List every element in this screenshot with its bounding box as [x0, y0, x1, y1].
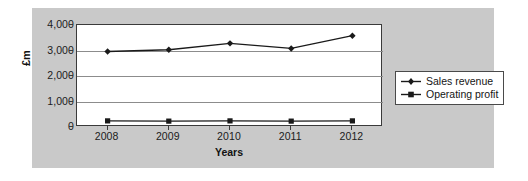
plot-svg [77, 25, 383, 127]
y-tick-label: 4,000 [30, 19, 74, 29]
legend-marker-square-icon [400, 89, 422, 100]
chart-panel: £m 4,000 3,000 2,000 1,000 0 2008 [32, 8, 494, 168]
chart-legend: Sales revenue Operating profit [395, 71, 504, 105]
data-point-square [105, 118, 110, 123]
y-tick-mark [69, 75, 73, 76]
data-point-square [289, 119, 294, 124]
data-point-square [350, 118, 355, 123]
x-axis-tick-labels: 2008 2009 2010 2011 2012 [76, 130, 382, 146]
legend-marker-diamond-icon [400, 76, 422, 87]
y-tick-mark [69, 126, 73, 127]
y-tick-mark [69, 101, 73, 102]
data-point-diamond [104, 48, 110, 54]
y-tick-label: 1,000 [30, 96, 74, 106]
legend-item-label: Sales revenue [426, 76, 493, 87]
gridlines [77, 52, 383, 103]
y-tick-label: 0 [30, 121, 74, 131]
x-tick-label: 2009 [140, 130, 196, 142]
chart-figure: £m 4,000 3,000 2,000 1,000 0 2008 [0, 0, 528, 181]
x-tick-label: 2008 [79, 130, 135, 142]
data-point-square [166, 119, 171, 124]
x-tick-label: 2010 [201, 130, 257, 142]
x-axis-title: Years [76, 146, 382, 158]
y-tick-label: 3,000 [30, 45, 74, 55]
legend-item-label: Operating profit [426, 89, 498, 100]
y-tick-mark [69, 50, 73, 51]
y-tick-label: 2,000 [30, 70, 74, 80]
legend-item[interactable]: Sales revenue [400, 75, 498, 88]
legend-item[interactable]: Operating profit [400, 88, 498, 101]
y-axis-tick-labels: 4,000 3,000 2,000 1,000 0 [28, 24, 74, 126]
series-layer [104, 33, 355, 124]
data-point-diamond [349, 33, 355, 39]
x-tick-label: 2012 [323, 130, 379, 142]
x-tick-label: 2011 [262, 130, 318, 142]
data-point-diamond [288, 45, 294, 51]
plot-area [76, 24, 382, 126]
data-point-diamond [227, 40, 233, 46]
data-point-square [227, 118, 232, 123]
y-tick-mark [69, 24, 73, 25]
